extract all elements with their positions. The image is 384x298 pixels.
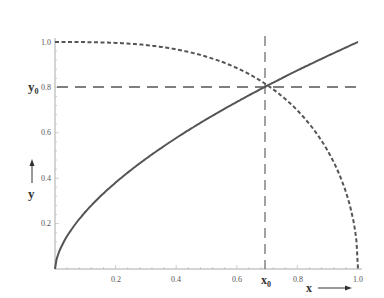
x-tick-label: 0.6	[232, 275, 242, 284]
increasing-curve	[55, 42, 358, 269]
y0-label: y0	[28, 79, 39, 96]
y-tick-label: 0.6	[41, 128, 51, 137]
y-tick-label: 1.0	[41, 38, 51, 47]
minor-ticks	[55, 42, 358, 269]
y-arrowhead-icon	[30, 159, 35, 166]
decreasing-curve	[55, 42, 358, 269]
y-tick-label: 0.2	[41, 219, 51, 228]
y-tick-label: 0.8	[41, 83, 51, 92]
x-tick-label: 0.8	[293, 275, 303, 284]
x0-label: x0	[261, 273, 271, 289]
y-tick-label: 0.4	[41, 174, 51, 183]
x-tick-label: 1.0	[353, 275, 363, 284]
x-tick-label: 0.2	[111, 275, 121, 284]
x-tick-label: 0.4	[171, 275, 181, 284]
x-arrowhead-icon	[345, 286, 352, 291]
chart: 0.2 0.4 0.6 0.8 1.0 0.2 0.4 0.6 0.8 1.0 …	[0, 0, 384, 298]
x-axis-label: x	[306, 281, 312, 295]
y-axis-label: y	[28, 186, 35, 201]
